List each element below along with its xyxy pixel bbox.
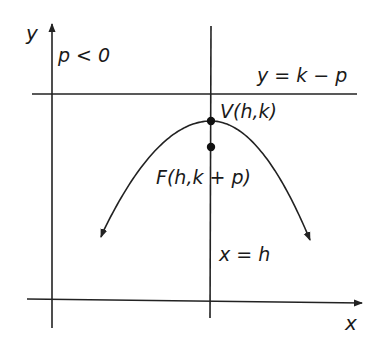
focus-label: F(h,k + p) — [156, 166, 251, 188]
condition-label: p < 0 — [57, 44, 110, 66]
focus-point — [207, 143, 215, 151]
axis-of-symmetry-label: x = h — [218, 243, 270, 265]
y-axis-label: y — [25, 21, 39, 45]
x-axis-label: x — [344, 311, 357, 335]
x-axis — [27, 299, 362, 303]
vertex-label: V(h,k) — [220, 100, 277, 122]
vertex-point — [207, 117, 215, 125]
parabola-diagram: y x p < 0 y = k − p V(h,k) F(h,k + p) x … — [0, 0, 378, 362]
directrix-label: y = k − p — [256, 64, 347, 86]
